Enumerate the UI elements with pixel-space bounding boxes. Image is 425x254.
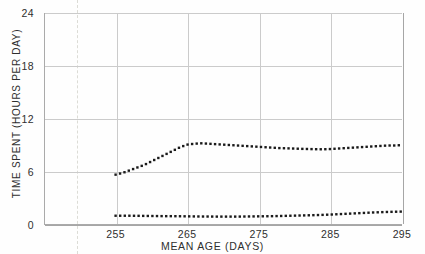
gridline-vertical bbox=[188, 13, 189, 224]
gridline-vertical bbox=[117, 13, 118, 224]
chart-figure: 06121824 255265275285295 MEAN AGE (DAYS)… bbox=[0, 0, 425, 254]
x-tick-label: 255 bbox=[106, 228, 125, 240]
plot-area bbox=[44, 13, 402, 225]
gridline-horizontal bbox=[45, 13, 402, 14]
x-tick-label: 295 bbox=[393, 228, 412, 240]
gridline-vertical bbox=[260, 13, 261, 224]
y-tick-label: 12 bbox=[22, 113, 34, 125]
y-tick-label: 24 bbox=[22, 7, 34, 19]
gridline-horizontal bbox=[45, 66, 402, 67]
gridline-horizontal bbox=[45, 119, 402, 120]
y-tick-label: 6 bbox=[28, 166, 34, 178]
gridline-vertical bbox=[403, 13, 404, 224]
gridline-vertical bbox=[331, 13, 332, 224]
x-tick-label: 265 bbox=[178, 228, 197, 240]
x-tick-label: 275 bbox=[249, 228, 268, 240]
gridline-horizontal bbox=[45, 225, 402, 226]
gridline-horizontal bbox=[45, 172, 402, 173]
y-tick-label: 18 bbox=[22, 60, 34, 72]
x-tick-label: 285 bbox=[321, 228, 340, 240]
y-axis-title: TIME SPENT (HOURS PER DAY) bbox=[11, 14, 22, 214]
x-axis-title: MEAN AGE (DAYS) bbox=[0, 240, 425, 252]
